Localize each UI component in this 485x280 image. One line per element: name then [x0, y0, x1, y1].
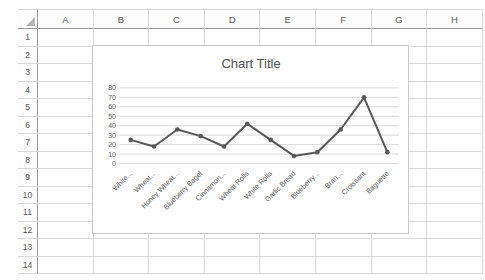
- cell-D1[interactable]: [205, 29, 261, 47]
- cell-A6[interactable]: [38, 117, 94, 135]
- cell-H7[interactable]: [427, 134, 483, 152]
- cell-H4[interactable]: [427, 82, 483, 100]
- cell-H10[interactable]: [427, 187, 483, 205]
- row-header-13[interactable]: 13: [18, 239, 38, 257]
- row-header-1[interactable]: 1: [18, 29, 38, 47]
- data-point-marker[interactable]: [315, 150, 320, 155]
- cell-D13[interactable]: [205, 239, 261, 257]
- cell-A11[interactable]: [38, 204, 94, 222]
- cell-A1[interactable]: [38, 29, 94, 47]
- cell-H5[interactable]: [427, 99, 483, 117]
- cell-A3[interactable]: [38, 64, 94, 82]
- data-point-marker[interactable]: [292, 154, 297, 159]
- row-header-5[interactable]: 5: [18, 99, 38, 117]
- y-axis-tick-label: 70: [108, 94, 116, 101]
- y-axis-tick-label: 0: [112, 160, 116, 167]
- cell-A4[interactable]: [38, 82, 94, 100]
- column-header-D[interactable]: D: [205, 10, 261, 29]
- cell-G13[interactable]: [372, 239, 428, 257]
- data-point-marker[interactable]: [385, 150, 390, 155]
- chart-axis-labels: 01020304050607080White...Wheat...Honey W…: [108, 84, 391, 211]
- y-axis-tick-label: 20: [108, 141, 116, 148]
- cell-A8[interactable]: [38, 152, 94, 170]
- y-axis-tick-label: 60: [108, 103, 116, 110]
- y-axis-tick-label: 80: [108, 84, 116, 91]
- chart-title[interactable]: Chart Title: [221, 56, 280, 71]
- cell-A9[interactable]: [38, 169, 94, 187]
- x-category-label: White...: [110, 169, 134, 193]
- row-header-9[interactable]: 9: [18, 169, 38, 187]
- cell-A2[interactable]: [38, 47, 94, 65]
- cell-F13[interactable]: [316, 239, 372, 257]
- cell-B14[interactable]: [94, 257, 150, 275]
- cell-F1[interactable]: [316, 29, 372, 47]
- cell-A14[interactable]: [38, 257, 94, 275]
- cell-H14[interactable]: [427, 257, 483, 275]
- column-header-C[interactable]: C: [149, 10, 205, 29]
- cell-C1[interactable]: [149, 29, 205, 47]
- cell-H9[interactable]: [427, 169, 483, 187]
- column-header-B[interactable]: B: [94, 10, 150, 29]
- y-axis-tick-label: 40: [108, 122, 116, 129]
- chart-gridlines: [119, 88, 399, 164]
- cell-H2[interactable]: [427, 47, 483, 65]
- spreadsheet-app-canvas: ABCDEFGH1234567891011121314 010203040506…: [0, 0, 485, 280]
- chart-object[interactable]: 01020304050607080White...Wheat...Honey W…: [92, 45, 409, 234]
- cell-C14[interactable]: [149, 257, 205, 275]
- column-header-G[interactable]: G: [372, 10, 428, 29]
- column-header-H[interactable]: H: [427, 10, 483, 29]
- data-point-marker[interactable]: [362, 95, 367, 100]
- cell-A7[interactable]: [38, 134, 94, 152]
- cell-H8[interactable]: [427, 152, 483, 170]
- data-point-marker[interactable]: [152, 144, 157, 149]
- cell-H11[interactable]: [427, 204, 483, 222]
- cell-A13[interactable]: [38, 239, 94, 257]
- row-header-3[interactable]: 3: [18, 64, 38, 82]
- select-all-button[interactable]: [18, 10, 38, 29]
- cell-G1[interactable]: [372, 29, 428, 47]
- data-point-marker[interactable]: [128, 138, 133, 143]
- chart-svg: 01020304050607080White...Wheat...Honey W…: [93, 46, 408, 233]
- column-header-A[interactable]: A: [38, 10, 94, 29]
- y-axis-tick-label: 50: [108, 113, 116, 120]
- row-header-8[interactable]: 8: [18, 152, 38, 170]
- data-point-marker[interactable]: [245, 122, 250, 127]
- cell-A12[interactable]: [38, 222, 94, 240]
- row-header-12[interactable]: 12: [18, 222, 38, 240]
- cell-H1[interactable]: [427, 29, 483, 47]
- row-header-14[interactable]: 14: [18, 257, 38, 275]
- x-category-label: Croissant: [340, 169, 368, 197]
- cell-G14[interactable]: [372, 257, 428, 275]
- row-header-7[interactable]: 7: [18, 134, 38, 152]
- cell-C13[interactable]: [149, 239, 205, 257]
- row-header-4[interactable]: 4: [18, 82, 38, 100]
- cell-E1[interactable]: [260, 29, 316, 47]
- cell-A10[interactable]: [38, 187, 94, 205]
- column-header-E[interactable]: E: [260, 10, 316, 29]
- chart-series: [128, 95, 389, 158]
- select-all-triangle-icon: [26, 17, 35, 26]
- column-header-F[interactable]: F: [316, 10, 372, 29]
- cell-B13[interactable]: [94, 239, 150, 257]
- cell-H6[interactable]: [427, 117, 483, 135]
- data-point-marker[interactable]: [338, 127, 343, 132]
- cell-H13[interactable]: [427, 239, 483, 257]
- cell-D14[interactable]: [205, 257, 261, 275]
- row-header-10[interactable]: 10: [18, 187, 38, 205]
- y-axis-tick-label: 10: [108, 151, 116, 158]
- cell-H3[interactable]: [427, 64, 483, 82]
- row-header-6[interactable]: 6: [18, 117, 38, 135]
- data-point-marker[interactable]: [222, 144, 227, 149]
- cell-F14[interactable]: [316, 257, 372, 275]
- row-header-11[interactable]: 11: [18, 204, 38, 222]
- row-header-2[interactable]: 2: [18, 47, 38, 65]
- cell-B1[interactable]: [94, 29, 150, 47]
- data-point-marker[interactable]: [198, 134, 203, 139]
- series-line[interactable]: [131, 97, 388, 156]
- cell-E13[interactable]: [260, 239, 316, 257]
- cell-H12[interactable]: [427, 222, 483, 240]
- cell-E14[interactable]: [260, 257, 316, 275]
- data-point-marker[interactable]: [175, 127, 180, 132]
- cell-A5[interactable]: [38, 99, 94, 117]
- data-point-marker[interactable]: [268, 138, 273, 143]
